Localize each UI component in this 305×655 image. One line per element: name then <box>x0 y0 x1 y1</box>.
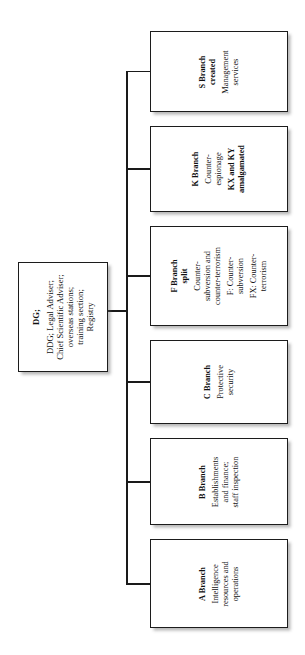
node-f-branch-line-6: subversion <box>235 258 245 294</box>
node-b-branch[interactable]: B Branch Establishments and finance; sta… <box>150 438 288 525</box>
connector-branch-k <box>126 168 150 170</box>
node-a-branch-text: A Branch Intelligence resources and oper… <box>198 532 241 636</box>
node-k-branch-line-0: K Branch <box>191 152 201 187</box>
node-f-branch-line-3: subversion and <box>203 251 213 301</box>
node-a-branch-line-0: A Branch <box>198 567 208 601</box>
node-a-branch-line-1: Intelligence <box>211 564 221 603</box>
node-f-branch-line-0: F Branch <box>170 259 180 292</box>
node-a-branch-line-2: resources and <box>221 561 231 606</box>
node-dg-line-4: training section; <box>75 289 85 345</box>
node-c-branch-line-1: Protective <box>216 365 226 399</box>
connector-branch-f <box>126 275 150 277</box>
node-a-branch[interactable]: A Branch Intelligence resources and oper… <box>150 539 288 628</box>
node-dg-line-3: overseas stations; <box>65 287 75 347</box>
node-s-branch-line-3: services <box>231 58 241 85</box>
node-c-branch-text: C Branch Protective security <box>203 330 236 434</box>
node-f-branch-line-1: split <box>180 268 190 283</box>
node-f-branch-line-2: Counter- <box>193 261 203 290</box>
node-f-branch-text: F Branch split Counter- subversion and c… <box>170 217 268 335</box>
node-s-branch[interactable]: S Branch created Management services <box>150 31 288 112</box>
node-a-branch-line-3: operations <box>231 566 241 601</box>
node-b-branch-line-3: staff inspection <box>231 456 241 507</box>
node-b-branch-line-0: B Branch <box>198 465 208 499</box>
node-f-branch[interactable]: F Branch split Counter- subversion and c… <box>150 226 288 326</box>
org-chart-canvas: DG; DDG; Legal Adviser; Chief Scientific… <box>0 0 305 655</box>
connector-vertical-trunk <box>126 72 128 584</box>
node-dg-text: DG; DDG; Legal Adviser; Chief Scientific… <box>31 265 95 369</box>
node-s-branch-line-2: Management <box>221 50 231 93</box>
node-s-branch-line-0: S Branch <box>198 55 208 88</box>
node-k-branch-text: K Branch Counter- espionage KX and KY am… <box>191 117 247 221</box>
node-c-branch-line-2: security <box>226 369 236 395</box>
node-c-branch-line-0: C Branch <box>203 365 213 399</box>
node-f-branch-line-8: terrorism <box>258 261 268 291</box>
node-b-branch-line-2: and finance; <box>221 461 231 502</box>
connector-dg-stem <box>108 310 127 312</box>
node-c-branch[interactable]: C Branch Protective security <box>150 340 288 424</box>
node-b-branch-line-1: Establishments <box>211 456 221 506</box>
node-f-branch-line-7: FX: Counter- <box>249 254 259 298</box>
connector-branch-b <box>126 481 150 483</box>
node-k-branch-line-3: KX and KY <box>227 148 237 190</box>
node-dg-line-2: Chief Scientific Adviser; <box>55 274 65 359</box>
node-s-branch-line-1: created <box>207 58 217 84</box>
node-b-branch-text: B Branch Establishments and finance; sta… <box>198 430 241 534</box>
node-k-branch-line-4: amalgamated <box>237 145 247 193</box>
connector-branch-a <box>126 583 150 585</box>
node-dg[interactable]: DG; DDG; Legal Adviser; Chief Scientific… <box>18 262 108 372</box>
node-f-branch-line-4: counter-terrorism <box>212 247 222 305</box>
node-dg-line-5: Registry <box>85 302 95 331</box>
node-f-branch-line-5: F: Counter- <box>226 257 236 295</box>
node-k-branch[interactable]: K Branch Counter- espionage KX and KY am… <box>150 126 288 212</box>
node-dg-line-0: DG; <box>31 309 41 325</box>
node-k-branch-line-2: espionage <box>214 152 224 185</box>
node-k-branch-line-1: Counter- <box>204 154 214 183</box>
connector-branch-c <box>126 381 150 383</box>
node-dg-line-1: DDG; Legal Adviser; <box>45 280 55 354</box>
node-s-branch-text: S Branch created Management services <box>198 20 241 124</box>
connector-branch-s <box>126 71 150 73</box>
